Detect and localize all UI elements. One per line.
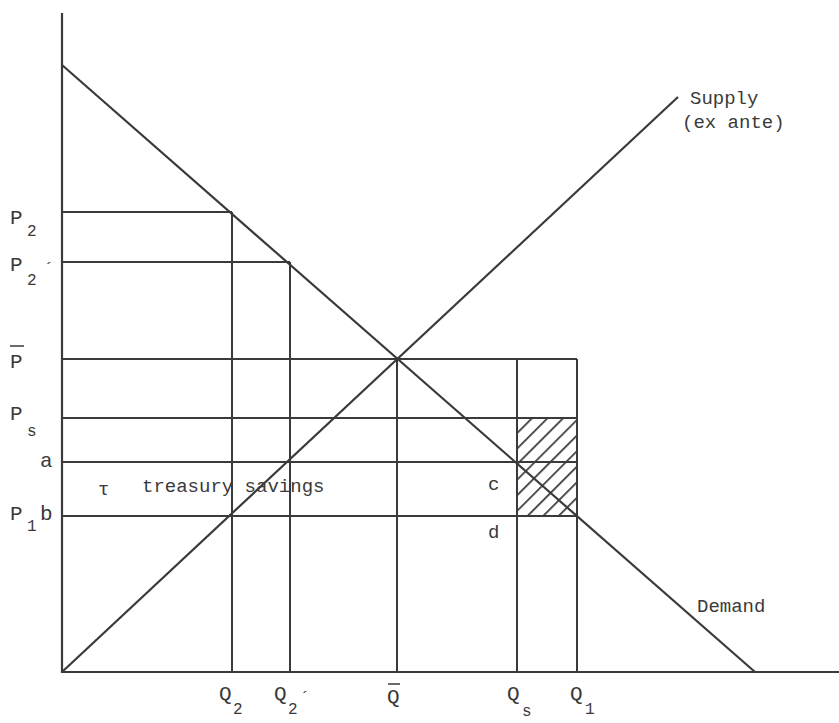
supply-curve — [62, 97, 678, 672]
supply-label: Supply — [690, 88, 758, 110]
tau-label: τ — [98, 479, 109, 501]
svg-text:P: P — [10, 403, 23, 426]
svg-text:2: 2 — [27, 223, 37, 241]
demand-curve — [62, 65, 755, 672]
x-label-qs: Q s — [507, 683, 532, 721]
svg-text:1: 1 — [585, 701, 595, 719]
svg-text:Q: Q — [507, 683, 520, 706]
svg-text:s: s — [522, 703, 532, 721]
svg-text:2: 2 — [27, 272, 37, 290]
x-label-q2-prime: Q 2 ´ — [274, 683, 310, 719]
svg-text:Q: Q — [219, 683, 232, 706]
svg-text:2: 2 — [233, 701, 243, 719]
treasury-savings-label: treasury savings — [142, 476, 324, 498]
svg-text:Q: Q — [387, 686, 400, 709]
x-label-qbar: Q — [387, 684, 400, 709]
svg-text:P: P — [10, 207, 23, 230]
svg-text:´: ´ — [44, 261, 54, 279]
svg-text:b: b — [40, 503, 53, 526]
svg-text:Q: Q — [570, 683, 583, 706]
y-label-p2-prime: P 2 ´ — [10, 254, 54, 290]
y-label-pbar: P — [10, 346, 24, 374]
demand-label: Demand — [697, 596, 765, 618]
svg-text:´: ´ — [300, 690, 310, 708]
y-label-ps: P s — [10, 403, 37, 441]
x-label-q1: Q 1 — [570, 683, 595, 719]
point-c-label: c — [488, 474, 499, 496]
svg-text:P: P — [10, 503, 23, 526]
y-label-p1b: P 1 b — [10, 503, 53, 536]
svg-text:P: P — [10, 254, 23, 277]
y-label-a: a — [40, 450, 53, 473]
y-label-p2: P 2 — [10, 207, 37, 241]
x-label-q2: Q 2 — [219, 683, 243, 719]
svg-text:P: P — [10, 351, 23, 374]
supply-demand-diagram: Supply (ex ante) Demand P 2 P 2 ´ P P s … — [0, 0, 839, 723]
svg-text:Q: Q — [274, 683, 287, 706]
svg-text:1: 1 — [27, 518, 37, 536]
hatched-region — [517, 418, 577, 516]
svg-text:2: 2 — [288, 701, 298, 719]
supply-label-sub: (ex ante) — [682, 112, 785, 134]
point-d-label: d — [488, 522, 499, 544]
svg-text:s: s — [27, 423, 37, 441]
